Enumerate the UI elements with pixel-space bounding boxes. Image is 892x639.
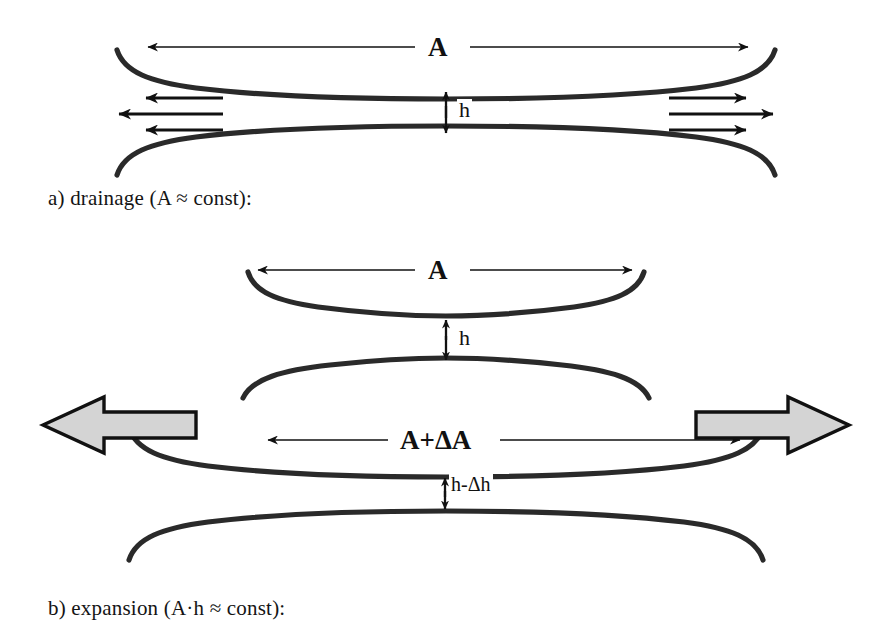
panel-a-flow-arrows-right	[669, 98, 773, 130]
panel-a-drainage	[117, 47, 775, 175]
expansion-block-arrow-left	[43, 397, 196, 453]
film-thinning-diagram	[0, 0, 892, 639]
panel-a-flow-arrows-left	[119, 98, 223, 130]
panel-a-area-label: A	[419, 34, 457, 61]
panel-b-area-label: A	[419, 257, 457, 284]
panel-b-expansion	[43, 270, 849, 560]
panel-b-expanded-area-label: A+ΔA	[392, 427, 479, 454]
panel-a-caption: a) drainage (A ≈ const):	[48, 186, 252, 211]
figure-root: A h A h A+ΔA h-Δh a) drainage (A ≈ const…	[0, 0, 892, 639]
expansion-block-arrow-right	[696, 397, 849, 453]
panel-b-middle-film-surface	[243, 358, 649, 398]
panel-a-lower-film-surface	[117, 126, 775, 175]
panel-a-thickness-label: h	[457, 99, 472, 121]
panel-b-bottom-film-surface	[129, 511, 763, 560]
panel-b-thickness-label: h	[457, 327, 472, 349]
panel-b-caption: b) expansion (A·h ≈ const):	[48, 596, 285, 621]
panel-b-reduced-thickness-label: h-Δh	[449, 474, 493, 494]
